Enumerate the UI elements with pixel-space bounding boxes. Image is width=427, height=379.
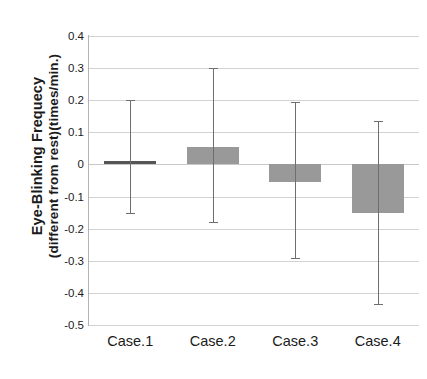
chart-figure: Eye-Blinking Frequecy (different from re…: [0, 0, 427, 379]
y-tick-label-0: 0: [44, 158, 84, 170]
x-tick-label-case-1: Case.1: [107, 333, 153, 349]
gridline-0.2: [89, 100, 419, 101]
y-tick-label--0.4: -0.4: [44, 287, 84, 299]
y-tick-label--0.2: -0.2: [44, 223, 84, 235]
y-tick-label-0.1: 0.1: [44, 126, 84, 138]
error-bar-cap-upper-case-2: [209, 68, 218, 69]
error-bar-case-4: [378, 121, 379, 304]
y-axis-tick-labels: 0.40.30.20.10-0.1-0.2-0.3-0.4-0.5: [40, 36, 84, 325]
error-bar-case-1: [130, 100, 131, 212]
x-tick-label-case-4: Case.4: [355, 333, 401, 349]
x-axis-tick-labels: Case.1Case.2Case.3Case.4: [89, 333, 419, 363]
error-bar-cap-upper-case-1: [126, 100, 135, 101]
gridline--0.5: [89, 325, 419, 326]
error-bar-cap-lower-case-2: [209, 222, 218, 223]
y-tick-label-0.3: 0.3: [44, 62, 84, 74]
x-tick-label-case-3: Case.3: [272, 333, 318, 349]
error-bar-case-3: [295, 102, 296, 258]
gridline-0.4: [89, 36, 419, 37]
plot-area: [89, 36, 419, 325]
error-bar-cap-lower-case-3: [291, 258, 300, 259]
y-tick-label--0.3: -0.3: [44, 255, 84, 267]
error-bar-cap-lower-case-1: [126, 213, 135, 214]
gridline--0.4: [89, 293, 419, 294]
gridline-0.3: [89, 68, 419, 69]
error-bar-cap-upper-case-4: [374, 121, 383, 122]
error-bar-case-2: [213, 68, 214, 222]
error-bar-cap-lower-case-4: [374, 304, 383, 305]
gridline--0.3: [89, 261, 419, 262]
y-tick-label-0.2: 0.2: [44, 94, 84, 106]
error-bar-cap-upper-case-3: [291, 102, 300, 103]
gridline--0.2: [89, 229, 419, 230]
x-tick-label-case-2: Case.2: [190, 333, 236, 349]
gridline-0.1: [89, 132, 419, 133]
y-tick-label--0.5: -0.5: [44, 319, 84, 331]
y-tick-label-0.4: 0.4: [44, 30, 84, 42]
y-tick-label--0.1: -0.1: [44, 191, 84, 203]
